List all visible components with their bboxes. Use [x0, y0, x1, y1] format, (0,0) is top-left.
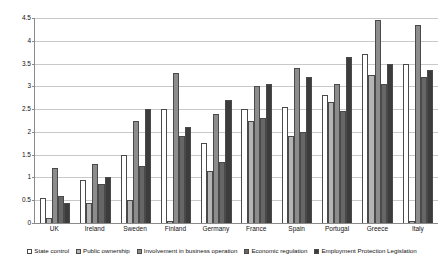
x-axis-label: Spain	[276, 226, 316, 233]
legend-label: Employment Protection Legislation	[321, 248, 416, 254]
legend-swatch-icon	[76, 249, 81, 254]
legend-label: State control	[34, 248, 69, 254]
legend-item: Employment Protection Legislation	[314, 248, 416, 254]
bar-group	[156, 18, 196, 223]
legend-swatch-icon	[27, 249, 32, 254]
legend-label: Economic regulation	[251, 248, 307, 254]
legend-swatch-icon	[244, 249, 249, 254]
legend-item: Public ownership	[76, 248, 130, 254]
bar	[427, 70, 433, 223]
bar	[403, 64, 409, 223]
chart-legend: State controlPublic ownershipInvolvement…	[0, 248, 444, 254]
legend-item: State control	[27, 248, 69, 254]
bar	[185, 127, 191, 223]
y-axis-tick-label: 1.5	[22, 151, 35, 158]
x-axis-label: Germany	[196, 226, 236, 233]
bar	[266, 84, 272, 223]
x-axis-label: Italy	[398, 226, 438, 233]
legend-swatch-icon	[314, 249, 319, 254]
bar-group	[75, 18, 115, 223]
x-axis-label: Ireland	[74, 226, 114, 233]
legend-label: Public ownership	[83, 248, 130, 254]
bar	[387, 64, 393, 223]
grouped-bar-chart: 00.511.522.533.544.5 UKIrelandSwedenFinl…	[0, 0, 444, 269]
bar-group	[196, 18, 236, 223]
x-axis-label: UK	[34, 226, 74, 233]
bar-group	[277, 18, 317, 223]
y-axis-tick-label: 4.5	[22, 15, 35, 22]
bar-group	[398, 18, 438, 223]
y-axis-tick-label: 1	[27, 174, 35, 181]
y-axis-tick-label: 2	[27, 129, 35, 136]
bar	[346, 57, 352, 223]
x-axis-label: Greece	[357, 226, 397, 233]
x-axis-label: France	[236, 226, 276, 233]
x-axis-label: Finland	[155, 226, 195, 233]
legend-item: Involvement in business operation	[137, 248, 238, 254]
y-axis-tick-label: 0.5	[22, 197, 35, 204]
x-axis-label: Portugal	[317, 226, 357, 233]
bar-group	[116, 18, 156, 223]
x-axis-labels: UKIrelandSwedenFinlandGermanyFranceSpain…	[34, 226, 438, 233]
y-axis-tick-label: 3.5	[22, 60, 35, 67]
y-axis-tick-label: 2.5	[22, 106, 35, 113]
x-axis-label: Sweden	[115, 226, 155, 233]
bar-group	[357, 18, 397, 223]
bar	[145, 109, 151, 223]
legend-label: Involvement in business operation	[144, 248, 238, 254]
legend-swatch-icon	[137, 249, 142, 254]
bar-group	[35, 18, 75, 223]
bar	[306, 77, 312, 223]
bar	[225, 100, 231, 223]
bar-group	[317, 18, 357, 223]
y-axis-tick-label: 3	[27, 83, 35, 90]
legend-item: Economic regulation	[244, 248, 307, 254]
y-axis-tick-label: 4	[27, 38, 35, 45]
bar-groups	[35, 18, 438, 223]
bar	[105, 177, 111, 223]
bar	[161, 109, 167, 223]
bar-group	[236, 18, 276, 223]
bar	[64, 203, 70, 224]
plot-area: 00.511.522.533.544.5	[34, 18, 438, 224]
